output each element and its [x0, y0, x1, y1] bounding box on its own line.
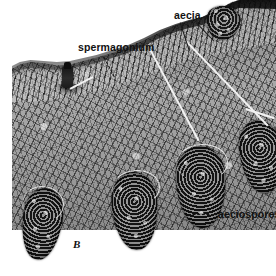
annotation-label-spermagonium: spermagonium: [78, 41, 154, 53]
annotation-label-aeciospores: aeciospores: [218, 208, 276, 220]
micrograph-figure: spermagonium aecia aeciospores B: [0, 0, 276, 276]
aeciospores-leader-line: [188, 214, 214, 215]
panel-letter-label: B: [73, 238, 80, 250]
spermagonium-ostiole: [64, 62, 71, 69]
spermagonium-structure: [62, 66, 73, 88]
annotation-label-aecia: aecia: [174, 9, 201, 21]
